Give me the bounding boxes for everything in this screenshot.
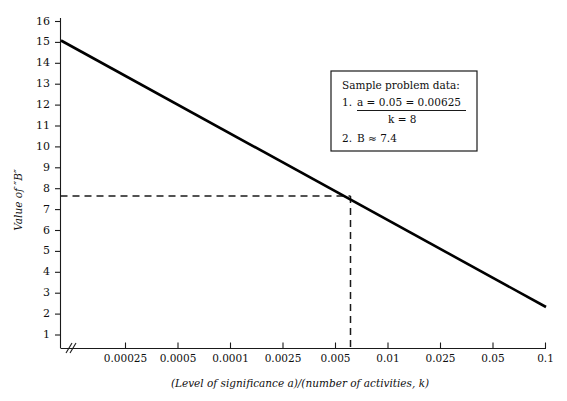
x-tick-label: 0.0005	[160, 352, 197, 364]
y-tick-label: 1	[43, 328, 50, 341]
x-tick-label: 0.0025	[265, 352, 302, 364]
y-tick-marks	[55, 22, 61, 336]
x-tick-label: 0.1	[537, 352, 554, 364]
y-tick-label: 6	[43, 224, 50, 237]
callout-item-1-numerator: a = 0.05 = 0.00625	[357, 96, 461, 108]
x-tick-label: 0.0001	[212, 352, 249, 364]
callout-title: Sample problem data:	[342, 79, 460, 91]
y-tick-label: 3	[43, 286, 50, 299]
callout-item-1-number: 1.	[342, 96, 352, 108]
y-tick-label: 4	[43, 265, 50, 278]
chart-figure: 16 15 14 13 12 11 10 9 8 7 6 5 4 3 2 1	[0, 0, 567, 401]
callout-item-1-denominator: k = 8	[388, 113, 417, 125]
y-tick-label: 9	[43, 161, 50, 174]
callout-item-2-text: B ≈ 7.4	[357, 132, 397, 144]
x-tick-labels: 0.00025 0.0005 0.0001 0.0025 0.005 0.01 …	[104, 352, 554, 364]
y-tick-label: 11	[36, 119, 50, 132]
y-axis-title: Value of ″B″	[12, 169, 24, 231]
y-tick-label: 12	[36, 98, 50, 111]
y-tick-label: 8	[43, 182, 50, 195]
x-tick-label: 0.05	[481, 352, 504, 364]
y-tick-labels: 16 15 14 13 12 11 10 9 8 7 6 5 4 3 2 1	[36, 15, 50, 342]
x-tick-label: 0.025	[425, 352, 455, 364]
x-tick-label: 0.005	[320, 352, 350, 364]
y-tick-label: 2	[43, 307, 50, 320]
y-tick-label: 10	[36, 140, 50, 153]
x-axis-title: (Level of significance a)/(number of act…	[171, 377, 429, 389]
y-tick-label: 13	[36, 77, 50, 90]
x-tick-marks	[126, 343, 546, 349]
x-tick-label: 0.00025	[104, 352, 147, 364]
callout-item-2-number: 2.	[342, 132, 352, 144]
y-tick-label: 5	[43, 244, 50, 257]
y-tick-label: 15	[36, 35, 50, 48]
y-tick-label: 16	[36, 15, 50, 28]
y-tick-label: 14	[36, 56, 50, 69]
y-tick-label: 7	[43, 203, 50, 216]
x-tick-label: 0.01	[376, 352, 399, 364]
sample-problem-callout: Sample problem data: 1. a = 0.05 = 0.006…	[331, 71, 477, 151]
chart-canvas: 16 15 14 13 12 11 10 9 8 7 6 5 4 3 2 1	[0, 0, 567, 401]
guide-lines	[61, 196, 351, 349]
